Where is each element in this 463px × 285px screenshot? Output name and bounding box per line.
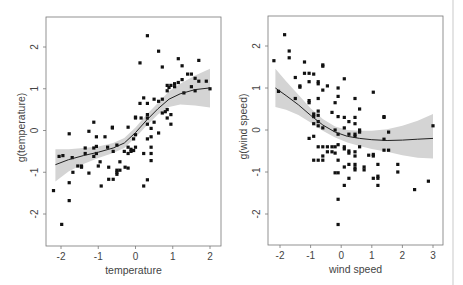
- x-tick-label: -1: [306, 250, 315, 261]
- data-point: [353, 168, 356, 171]
- data-point: [427, 180, 430, 183]
- data-point: [288, 56, 291, 59]
- data-point: [107, 166, 110, 169]
- data-point: [118, 160, 121, 163]
- data-point: [153, 121, 156, 124]
- data-point: [353, 154, 356, 157]
- data-point: [197, 59, 200, 62]
- data-point: [112, 150, 115, 153]
- data-point: [308, 80, 311, 83]
- data-point: [312, 135, 315, 138]
- data-point: [103, 135, 106, 138]
- data-point: [169, 84, 172, 87]
- data-point: [312, 73, 315, 76]
- data-point: [363, 165, 366, 168]
- x-tick-label: 0: [133, 251, 139, 262]
- data-point: [294, 76, 297, 79]
- wind-speed-panel: -2-10123 -2-1012 wind speed g(wind speed…: [237, 16, 443, 275]
- data-point: [95, 145, 98, 148]
- data-point: [367, 154, 370, 157]
- data-point: [60, 223, 63, 226]
- data-point: [343, 116, 346, 119]
- data-point: [177, 57, 180, 60]
- data-point: [100, 184, 103, 187]
- data-point: [334, 145, 337, 148]
- data-point: [337, 115, 340, 118]
- data-point: [330, 150, 333, 153]
- data-point: [321, 126, 324, 129]
- data-point: [334, 171, 337, 174]
- data-point: [308, 101, 311, 104]
- data-point: [317, 114, 320, 117]
- y-tick-label: 2: [29, 44, 40, 50]
- data-point: [334, 101, 337, 104]
- y-axis-ticks: -2-1012: [29, 44, 46, 219]
- data-point: [308, 72, 311, 75]
- data-point: [111, 126, 114, 129]
- data-point: [382, 116, 385, 119]
- data-point: [80, 166, 83, 169]
- data-point: [166, 108, 169, 111]
- y-tick-label: -1: [251, 167, 262, 176]
- data-point: [169, 123, 172, 126]
- data-point: [95, 135, 98, 138]
- data-point: [326, 150, 329, 153]
- data-point: [396, 163, 399, 166]
- data-point: [376, 177, 379, 180]
- data-point: [132, 137, 135, 140]
- data-point: [347, 133, 350, 136]
- x-tick-label: 3: [430, 250, 436, 261]
- x-tick-label: 0: [338, 250, 344, 261]
- data-point: [87, 172, 90, 175]
- y-tick-label: -2: [29, 209, 40, 218]
- data-point: [71, 171, 74, 174]
- data-point: [150, 135, 153, 138]
- data-point: [317, 159, 320, 162]
- data-point: [321, 145, 324, 148]
- data-point: [330, 145, 333, 148]
- data-point: [330, 111, 333, 114]
- data-point: [317, 110, 320, 113]
- x-tick-label: 1: [369, 250, 375, 261]
- data-point: [317, 145, 320, 148]
- data-point: [161, 111, 164, 114]
- data-point: [317, 97, 320, 100]
- data-point: [124, 166, 127, 169]
- data-point: [157, 131, 160, 134]
- data-point: [127, 167, 130, 170]
- data-point: [76, 164, 79, 167]
- data-point: [358, 145, 361, 148]
- data-point: [353, 116, 356, 119]
- data-point: [205, 80, 208, 83]
- data-point: [146, 123, 149, 126]
- data-point: [146, 178, 149, 181]
- data-point: [321, 65, 324, 68]
- data-point: [321, 159, 324, 162]
- data-point: [166, 116, 169, 119]
- data-point: [115, 171, 118, 174]
- data-point: [92, 121, 95, 124]
- data-point: [387, 131, 390, 134]
- y-tick-label: -1: [29, 167, 40, 176]
- data-point: [298, 86, 301, 89]
- data-point: [138, 61, 141, 64]
- x-tick-label: 1: [170, 251, 176, 262]
- data-point: [197, 80, 200, 83]
- data-point: [343, 126, 346, 129]
- data-point: [177, 81, 180, 84]
- data-point: [146, 113, 149, 116]
- y-tick-label: 1: [251, 85, 262, 91]
- data-point: [190, 85, 193, 88]
- y-tick-label: 0: [251, 127, 262, 133]
- data-point: [337, 159, 340, 162]
- x-tick-label: -2: [57, 251, 66, 262]
- data-point: [150, 152, 153, 155]
- x-axis-ticks: -2-10123: [276, 245, 437, 261]
- data-point: [358, 107, 361, 110]
- data-point: [169, 113, 172, 116]
- x-axis-label: temperature: [105, 264, 162, 276]
- x-tick-label: 2: [400, 250, 406, 261]
- data-point: [358, 131, 361, 134]
- data-point: [186, 73, 189, 76]
- data-point: [431, 124, 434, 127]
